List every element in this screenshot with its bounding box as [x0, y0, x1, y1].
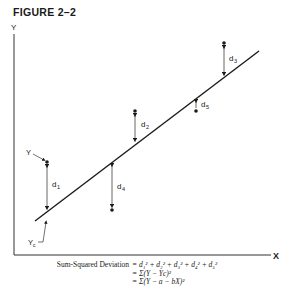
svg-text:d: d — [117, 182, 121, 191]
svg-text:d: d — [52, 180, 56, 189]
formula-line-3: = Σ(Y − a − bX)² — [132, 278, 185, 287]
deviation-d5: d 5 — [194, 100, 209, 113]
y-axis-label: Y — [11, 23, 17, 32]
computed-point-annotation: Y c — [28, 222, 46, 248]
deviation-d4: d 4 — [110, 165, 125, 212]
formula-lhs: Sum-Squared Deviation — [22, 261, 132, 270]
svg-text:3: 3 — [234, 58, 237, 64]
svg-text:Y: Y — [26, 148, 31, 157]
svg-text:5: 5 — [206, 104, 209, 110]
observed-point-annotation: Y — [26, 148, 44, 160]
svg-text:d: d — [201, 100, 205, 109]
svg-text:d: d — [141, 120, 145, 129]
regression-line — [35, 51, 259, 221]
svg-text:c: c — [33, 242, 36, 248]
svg-text:1: 1 — [57, 184, 60, 190]
svg-text:2: 2 — [146, 124, 149, 130]
sum-squared-deviation-formula: Sum-Squared Deviation = d₁² + d₂² + d₃² … — [22, 261, 217, 287]
deviation-d1: d 1 — [45, 160, 60, 208]
svg-text:d: d — [229, 54, 233, 63]
svg-text:4: 4 — [122, 186, 125, 192]
x-axis-label: X — [273, 251, 279, 261]
